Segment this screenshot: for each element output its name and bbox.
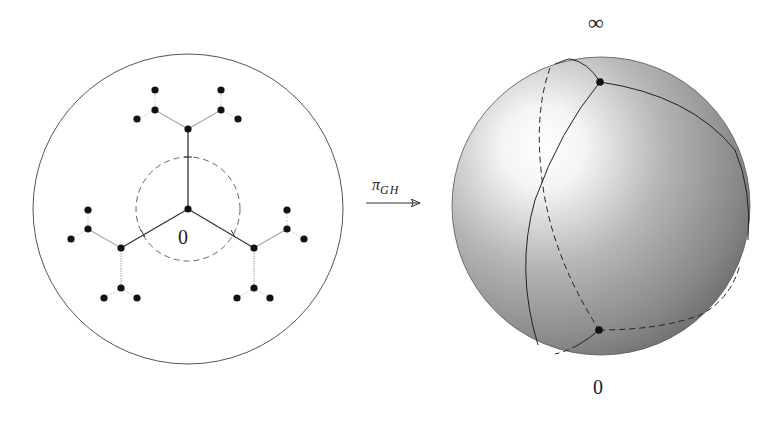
point-infinity <box>596 78 604 86</box>
map-label: πGH <box>372 176 399 198</box>
tree-node <box>283 225 290 232</box>
leaf-node <box>266 294 273 301</box>
sphere-panel <box>452 57 750 355</box>
point-zero <box>595 326 603 334</box>
leaf-node <box>283 206 290 213</box>
tree-node <box>151 106 158 113</box>
tree-node <box>84 225 91 232</box>
infinity-label: ∞ <box>588 10 604 36</box>
zero-label: 0 <box>593 376 603 399</box>
leaf-node <box>67 235 74 242</box>
leaf-node <box>300 235 307 242</box>
leaf-node <box>133 294 140 301</box>
root-node <box>184 205 191 212</box>
tree-node <box>250 284 257 291</box>
leaf-node <box>100 294 107 301</box>
tree-node <box>184 125 191 132</box>
map-label-subscript: GH <box>380 183 399 197</box>
leaf-node <box>84 206 91 213</box>
tree-node <box>250 244 257 251</box>
disk-panel <box>33 54 343 364</box>
tree-node <box>117 244 124 251</box>
leaf-node <box>217 86 224 93</box>
figure: 0 πGH ∞ 0 <box>0 0 782 425</box>
figure-canvas <box>0 0 782 425</box>
riemann-sphere <box>452 57 750 355</box>
origin-label: 0 <box>178 226 188 249</box>
tree-node <box>217 106 224 113</box>
tree-node <box>117 284 124 291</box>
map-label-main: π <box>372 176 380 193</box>
leaf-node <box>234 115 241 122</box>
leaf-node <box>133 115 140 122</box>
leaf-node <box>233 294 240 301</box>
leaf-node <box>151 86 158 93</box>
